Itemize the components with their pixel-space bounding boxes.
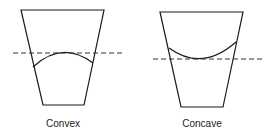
concave-panel	[153, 12, 262, 107]
convex-container	[21, 10, 104, 105]
concave-meniscus-curve	[169, 42, 236, 59]
meniscus-diagram	[0, 0, 273, 136]
convex-meniscus-curve	[33, 52, 93, 67]
convex-label: Convex	[23, 118, 103, 129]
concave-label: Concave	[162, 118, 242, 129]
convex-panel	[13, 10, 125, 105]
